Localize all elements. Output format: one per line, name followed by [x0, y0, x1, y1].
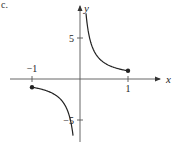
- curve-left-branch: [32, 87, 73, 135]
- axes: [10, 6, 160, 142]
- curve-right-branch: [86, 13, 128, 70]
- endpoint-dot: [30, 85, 34, 89]
- y-tick-label: −5: [63, 115, 74, 126]
- endpoint-dot: [126, 69, 130, 73]
- x-tick-label: −1: [27, 63, 38, 74]
- x-axis-label: x: [165, 73, 171, 85]
- y-axis-label: y: [83, 2, 89, 14]
- x-tick-label: 1: [126, 83, 131, 94]
- y-tick-label: 5: [69, 33, 74, 44]
- function-plot: −115−5 x y: [0, 0, 174, 143]
